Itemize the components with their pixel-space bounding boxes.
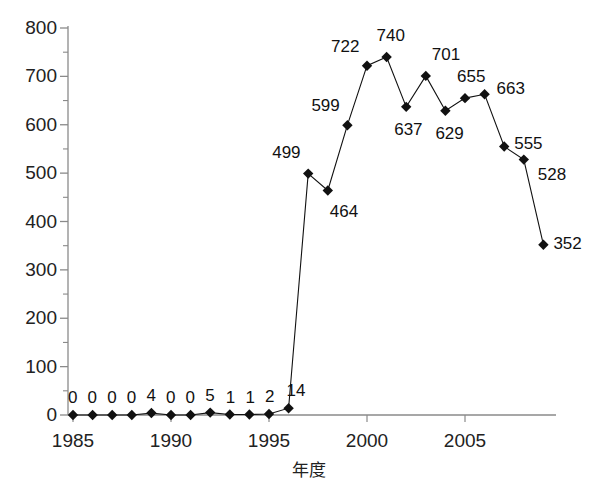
data-point-value-label: 499 [272,144,300,161]
data-point-value-label: 0 [88,389,97,406]
data-point-value-label: 722 [331,38,359,55]
data-point-marker [283,403,293,413]
data-point-markers [68,52,549,420]
chart-plot-area [0,0,606,502]
data-point-value-label: 528 [538,166,566,183]
x-axis-tick-label: 1995 [241,431,297,450]
y-axis-tick-label: 800 [25,18,57,37]
data-point-marker [146,408,156,418]
y-axis-tick-label: 400 [25,212,57,231]
line-chart: 0100200300400500600700800 19851990199520… [0,0,606,502]
data-point-marker [166,410,176,420]
x-axis-tick-label: 2000 [339,431,395,450]
data-point-marker [68,410,78,420]
x-axis-tick-label: 2005 [437,431,493,450]
y-axis-tick-label: 300 [25,260,57,279]
data-point-marker [87,410,97,420]
data-point-marker [244,409,254,419]
data-point-value-label: 1 [245,389,254,406]
data-point-value-label: 1 [226,389,235,406]
data-point-value-label: 2 [265,388,274,405]
data-point-value-label: 637 [394,121,422,138]
x-axis-tick-label: 1985 [45,431,101,450]
data-point-value-label: 663 [497,80,525,97]
data-point-marker [205,407,215,417]
data-point-marker [225,409,235,419]
data-point-marker [479,89,489,99]
data-point-marker [264,409,274,419]
data-point-value-label: 599 [311,97,339,114]
data-point-marker [519,154,529,164]
data-point-value-label: 0 [166,389,175,406]
data-point-marker [127,410,137,420]
y-axis-tick-label: 600 [25,115,57,134]
data-series-line [73,57,543,415]
data-point-marker [185,410,195,420]
data-point-value-label: 352 [553,235,581,252]
y-axis-tick-label: 200 [25,308,57,327]
data-point-value-label: 0 [68,389,77,406]
data-point-value-label: 14 [287,382,306,399]
data-point-marker [107,410,117,420]
data-point-value-label: 555 [514,135,542,152]
data-point-value-label: 464 [330,203,358,220]
data-point-value-label: 701 [432,46,460,63]
y-axis-tick-label: 500 [25,163,57,182]
x-axis-title: 年度 [292,462,326,479]
y-axis-tick-label: 0 [46,405,57,424]
data-point-value-label: 655 [457,68,485,85]
x-axis-tick-label: 1990 [143,431,199,450]
data-point-marker [381,52,391,62]
data-point-value-label: 0 [127,389,136,406]
data-point-value-label: 740 [377,27,405,44]
data-point-value-label: 5 [205,387,214,404]
data-point-marker [460,93,470,103]
data-point-marker [421,71,431,81]
data-point-marker [342,120,352,130]
data-point-marker [362,61,372,71]
data-point-value-label: 629 [435,125,463,142]
data-point-marker [538,240,548,250]
data-point-value-label: 0 [186,389,195,406]
y-axis-tick-label: 100 [25,357,57,376]
series-polyline [73,57,543,415]
data-point-value-label: 4 [146,387,155,404]
data-point-value-label: 0 [107,389,116,406]
data-point-marker [440,106,450,116]
data-point-marker [401,102,411,112]
y-axis-tick-label: 700 [25,66,57,85]
data-point-marker [499,141,509,151]
